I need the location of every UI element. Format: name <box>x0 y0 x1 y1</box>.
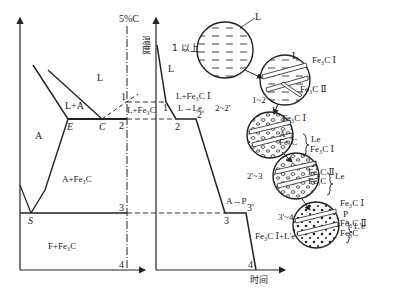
micro2-label-fe3c2: Fe₃C Ⅱ <box>300 85 327 94</box>
curve-label-primary: L+Fe₃C Ⅰ <box>176 92 211 101</box>
composition-label: 5%C <box>119 14 139 24</box>
curve-point-2: 2 <box>175 122 180 132</box>
region-ferrite-cementite: F+Fe₃C <box>48 242 76 251</box>
point-E: E <box>67 122 73 132</box>
stage-label-4: 2'~3 <box>247 172 263 181</box>
region-liquid-cementite: L+Fe₃C <box>127 106 156 115</box>
point-S: S <box>28 216 33 226</box>
alloy-point-3: 3 <box>119 203 124 213</box>
curve-point-3prime: 3' <box>247 203 254 213</box>
region-austenite-cementite: A+Fe₃C <box>62 175 92 184</box>
curve-point-3: 3 <box>224 216 229 226</box>
curve-point-1: 1 <box>163 103 168 113</box>
micro1-label-L: L <box>255 12 261 22</box>
micro2-label-fe3c1: Fe₃C Ⅰ <box>312 56 336 65</box>
microstructure-1 <box>197 18 255 78</box>
phase-diagram <box>20 18 145 270</box>
micro5-label-fe3c1: Fe₃C Ⅰ <box>340 199 364 208</box>
region-liquid-austenite: L+A <box>65 101 84 111</box>
alloy-point-4: 4 <box>119 260 124 270</box>
microstructure-5 <box>293 202 339 248</box>
point-C: C <box>99 122 106 132</box>
microstructure-2 <box>260 55 310 105</box>
micro3-label-fe3c1: Fe₃C Ⅰ <box>282 114 306 123</box>
micro5-group-Le-prime: L'e <box>354 222 365 231</box>
region-austenite: A <box>35 131 42 141</box>
diagram-canvas <box>0 0 398 306</box>
curve-label-eutectoid: A→P <box>226 197 247 206</box>
curve-point-4: 4 <box>248 260 253 270</box>
micro3-label-L: L <box>272 106 278 115</box>
micro4-label-fe3c1: Fe₃C Ⅰ <box>310 145 334 154</box>
micro3-group-Le: Le <box>311 135 321 144</box>
stage-label-2: 1~2 <box>252 96 266 105</box>
micro2-label-L: L <box>292 51 298 61</box>
stage-label-5: 3'~4 <box>278 213 294 222</box>
region-liquid: L <box>97 73 103 83</box>
stage-label-1: 1 以上 <box>172 44 199 53</box>
curve-label-final: Fe₃C Ⅰ+L'e <box>255 232 295 241</box>
micro4-label-fe3c: Fe₃C <box>308 177 326 186</box>
y-axis-label: 温度 <box>141 36 150 54</box>
stage-label-3: 2~2' <box>215 104 231 113</box>
curve-point-2prime: 2' <box>197 110 204 120</box>
micro3-label-fe3c: Fe₃C <box>279 138 297 147</box>
x-axis-label: 时间 <box>250 276 268 285</box>
micro4-group-Le: Le <box>335 172 345 181</box>
curve-label-liquid: L <box>168 64 174 74</box>
alloy-point-1: 1 <box>121 92 126 102</box>
alloy-point-2: 2 <box>119 121 124 131</box>
